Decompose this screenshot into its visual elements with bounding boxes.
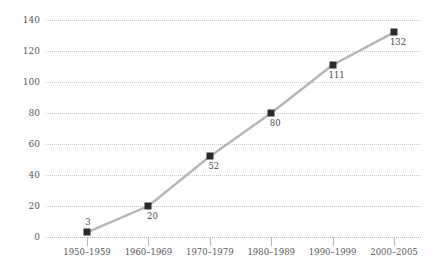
gridline-100 xyxy=(46,82,421,83)
x-tick-label: 2000–2005 xyxy=(370,248,418,257)
y-tick-label: 60 xyxy=(4,140,40,149)
y-tick-label: 140 xyxy=(4,16,40,25)
gridline-60 xyxy=(46,144,421,145)
x-tick-mark xyxy=(210,237,211,246)
data-point-label: 111 xyxy=(328,71,344,80)
y-tick-label: 80 xyxy=(4,109,40,118)
y-axis: 140 120 100 80 60 40 20 0 xyxy=(0,20,40,237)
x-tick-mark xyxy=(394,237,395,246)
x-tick-label: 1980–1989 xyxy=(247,248,295,257)
data-point-marker[interactable] xyxy=(84,229,91,236)
data-point-marker[interactable] xyxy=(206,153,213,160)
gridline-80 xyxy=(46,113,421,114)
line-chart: 140 120 100 80 60 40 20 0 3 20 52 80 111… xyxy=(0,0,448,268)
y-tick-label: 40 xyxy=(4,171,40,180)
data-point-label: 52 xyxy=(208,162,219,171)
y-tick-label: 120 xyxy=(4,47,40,56)
x-tick-mark xyxy=(271,237,272,246)
y-tick-label: 0 xyxy=(4,233,40,242)
gridline-40 xyxy=(46,175,421,176)
gridline-0 xyxy=(46,237,421,238)
data-point-label: 80 xyxy=(270,119,281,128)
x-tick-mark xyxy=(87,237,88,246)
gridline-120 xyxy=(46,51,421,52)
gridline-20 xyxy=(46,206,421,207)
data-point-marker[interactable] xyxy=(145,203,152,210)
data-point-marker[interactable] xyxy=(268,110,275,117)
x-tick-label: 1990–1999 xyxy=(309,248,357,257)
data-point-marker[interactable] xyxy=(391,29,398,36)
data-point-marker[interactable] xyxy=(329,62,336,69)
x-tick-mark xyxy=(148,237,149,246)
x-tick-label: 1970–1979 xyxy=(186,248,234,257)
data-point-label: 20 xyxy=(147,212,158,221)
x-tick-label: 1960–1969 xyxy=(125,248,173,257)
gridline-140 xyxy=(46,20,421,21)
data-point-label: 3 xyxy=(85,218,90,227)
y-tick-label: 20 xyxy=(4,202,40,211)
y-tick-label: 100 xyxy=(4,78,40,87)
x-tick-mark xyxy=(333,237,334,246)
x-tick-label: 1950–1959 xyxy=(63,248,111,257)
plot-area xyxy=(46,20,421,237)
data-point-label: 132 xyxy=(390,38,406,47)
